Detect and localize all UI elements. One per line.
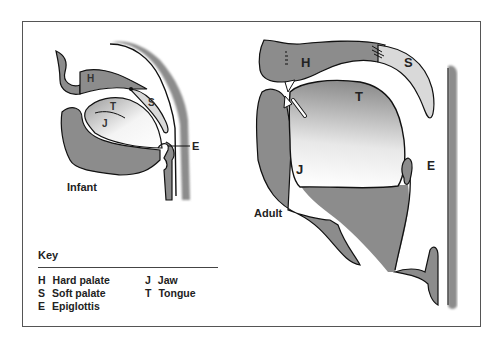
infant-label-hard-palate: H: [87, 73, 94, 84]
infant-caption: Infant: [67, 181, 97, 193]
key-item-soft-palate: S Soft palate: [38, 287, 145, 299]
key-label: Jaw: [158, 274, 178, 286]
adult-label-epiglottis: E: [427, 159, 435, 173]
key-label: Hard palate: [53, 274, 110, 286]
key-item-epiglottis: E Epiglottis: [38, 300, 145, 312]
adult-hard-palate: [259, 40, 385, 82]
key-code: H: [38, 274, 46, 286]
adult-larynx: [395, 247, 438, 305]
key-label: Soft palate: [52, 287, 106, 299]
adult-label-hard-palate: H: [301, 55, 310, 70]
infant-upper-lip: [56, 51, 80, 94]
adult-diagram: [257, 40, 457, 309]
infant-label-epiglottis: E: [192, 140, 199, 152]
adult-label-tongue: T: [355, 89, 363, 104]
infant-diagram: [56, 41, 190, 200]
key-item-hard-palate: H Hard palate: [38, 274, 145, 286]
key-title: Key: [38, 249, 218, 261]
infant-label-jaw: J: [102, 118, 108, 129]
key-divider: [38, 267, 218, 268]
adult-caption: Adult: [254, 207, 282, 219]
adult-epiglottis: [402, 158, 412, 184]
infant-label-soft-palate: S: [148, 97, 155, 108]
key-code: S: [38, 287, 45, 299]
key-item-tongue: T Tongue: [145, 287, 225, 299]
adult-pharynx-wall: [448, 65, 457, 309]
key-code: T: [145, 287, 151, 299]
adult-label-jaw: J: [296, 162, 303, 177]
key-label: Tongue: [158, 287, 195, 299]
key-label: Epiglottis: [52, 300, 100, 312]
key-legend: Key H Hard palate J Jaw S Soft palate T …: [38, 249, 218, 312]
key-code: J: [145, 274, 151, 286]
key-item-jaw: J Jaw: [145, 274, 225, 286]
adult-label-soft-palate: S: [404, 55, 413, 70]
adult-tongue: [289, 80, 405, 187]
key-code: E: [38, 300, 45, 312]
infant-label-tongue: T: [110, 101, 116, 112]
